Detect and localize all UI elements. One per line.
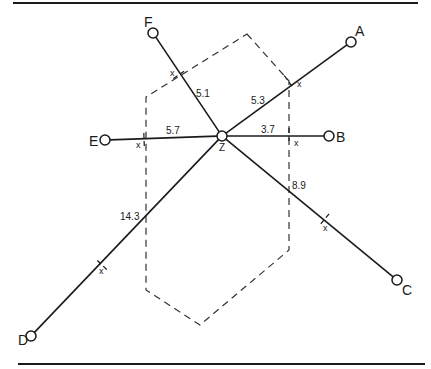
point-label-A: A [355, 23, 365, 39]
mark-x-B: x [294, 138, 299, 148]
mark-x-C: x [323, 223, 328, 233]
hexagon-distance-diagram: 5.33.78.914.35.75.1 xxxxxx ABCDEF Z [0, 0, 431, 369]
mark-x-E: x [136, 140, 141, 150]
distance-label-F: 5.1 [196, 88, 210, 99]
point-label-E: E [89, 133, 98, 149]
spoke-D [34, 140, 218, 333]
spoke-A [226, 45, 347, 133]
spokes: 5.33.78.914.35.75.1 [34, 37, 393, 332]
point-label-D: D [18, 332, 28, 348]
mark-x-D: x [99, 266, 104, 276]
center-label: Z [219, 142, 225, 153]
point-label-F: F [144, 14, 153, 30]
boundary-mark-F [173, 70, 186, 79]
dashed-hexagon [146, 34, 289, 325]
boundary-marks: xxxxxx [95, 68, 329, 276]
point-label-B: B [336, 129, 345, 145]
point-label-C: C [402, 282, 412, 298]
mark-x-F: x [170, 68, 175, 78]
point-C [392, 275, 402, 285]
point-B [324, 131, 334, 141]
distance-label-C: 8.9 [292, 180, 306, 191]
spoke-C [226, 139, 393, 277]
mark-x-A: x [297, 79, 302, 89]
point-E [100, 135, 110, 145]
center-point-z [217, 131, 227, 141]
distance-label-B: 3.7 [261, 124, 275, 135]
spoke-E [110, 136, 217, 140]
distance-label-A: 5.3 [251, 95, 265, 106]
distance-label-D: 14.3 [120, 211, 140, 222]
endpoints: ABCDEF [18, 14, 412, 348]
distance-label-E: 5.7 [166, 125, 180, 136]
